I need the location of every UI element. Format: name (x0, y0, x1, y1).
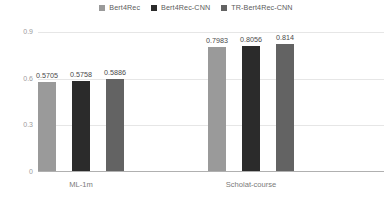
bar-value-label: 0.814 (276, 34, 294, 42)
y-axis-tick-label: 0 (29, 168, 33, 176)
bar-chart: Bert4RecBert4Rec-CNNTR-Bert4Rec-CNN 00.3… (0, 0, 392, 199)
bar[interactable]: 0.5758 (72, 81, 90, 171)
legend-item[interactable]: TR-Bert4Rec-CNN (221, 3, 292, 12)
legend-swatch-icon (151, 5, 157, 11)
bar[interactable]: 0.8056 (242, 46, 260, 171)
bar-value-label: 0.7983 (206, 37, 228, 45)
legend-swatch-icon (221, 5, 227, 11)
y-axis-tick-label: 0.3 (23, 121, 33, 129)
bar[interactable]: 0.7983 (208, 47, 226, 171)
x-axis-category-label: ML-1m (69, 180, 93, 189)
y-axis-tick-label: 0.9 (23, 28, 33, 36)
bar-value-label: 0.5705 (36, 72, 58, 80)
y-axis-tick-label: 0.6 (23, 75, 33, 83)
legend-label: Bert4Rec-CNN (161, 3, 210, 12)
bar[interactable]: 0.5886 (106, 79, 124, 171)
gridline (38, 32, 384, 33)
x-axis-line (38, 171, 384, 172)
bar-value-label: 0.8056 (240, 36, 262, 44)
bar-value-label: 0.5758 (70, 71, 92, 79)
legend-label: Bert4Rec (109, 3, 140, 12)
bar-value-label: 0.5886 (104, 69, 126, 77)
bar[interactable]: 0.5705 (38, 82, 56, 171)
legend-item[interactable]: Bert4Rec (99, 3, 140, 12)
chart-legend: Bert4RecBert4Rec-CNNTR-Bert4Rec-CNN (0, 3, 392, 12)
legend-swatch-icon (99, 5, 105, 11)
bar[interactable]: 0.814 (276, 44, 294, 171)
legend-item[interactable]: Bert4Rec-CNN (151, 3, 210, 12)
legend-label: TR-Bert4Rec-CNN (231, 3, 292, 12)
plot-area: 00.30.60.90.57050.57580.5886ML-1m0.79830… (38, 32, 384, 172)
x-axis-category-label: Scholat-course (226, 180, 277, 189)
